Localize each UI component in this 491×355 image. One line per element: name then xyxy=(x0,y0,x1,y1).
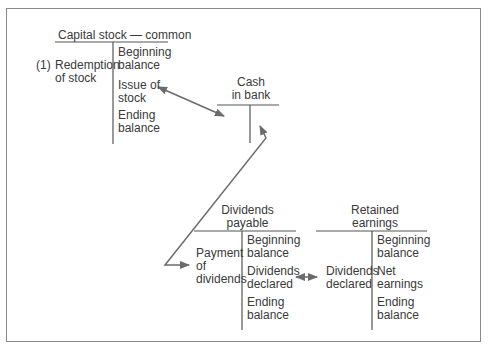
dividends-payable-credit-entry: Beginning balance xyxy=(247,234,300,260)
capital-stock-credit-entry: Issue of stock xyxy=(118,79,160,105)
capital-stock-title: Capital stock — common xyxy=(58,29,191,42)
retained-earnings-debit-entry: Dividends declared xyxy=(326,265,379,291)
dividends-payable-credit-entry: Dividends declared xyxy=(247,265,300,291)
capital-stock-credit-entry: Ending balance xyxy=(118,109,160,135)
capital-stock-debit-entry: Redemption of stock xyxy=(55,59,120,85)
dividends-payable-debit-entry: Payment of dividends xyxy=(196,247,247,286)
capital-stock-credit-entry: Beginning balance xyxy=(118,46,171,72)
arrow-issue-stock-cash xyxy=(158,87,224,116)
capital-stock-debit-marker: (1) xyxy=(36,59,51,72)
retained-earnings-title: Retained earnings xyxy=(335,204,415,230)
cash-title: Cash in bank xyxy=(226,76,276,102)
dividends-payable-title: Dividends payable xyxy=(210,204,285,230)
retained-earnings-credit-entry: Net earnings xyxy=(377,265,423,291)
dividends-payable-credit-entry: Ending balance xyxy=(247,296,289,322)
retained-earnings-credit-entry: Beginning balance xyxy=(377,234,430,260)
retained-earnings-credit-entry: Ending balance xyxy=(377,296,419,322)
